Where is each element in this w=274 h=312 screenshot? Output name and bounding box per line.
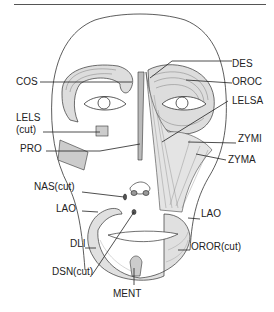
label-lao-right: LAO (201, 208, 221, 219)
label-pro: PRO (20, 143, 42, 154)
label-dli: DLI (70, 238, 86, 249)
label-ment: MENT (113, 288, 141, 299)
label-nascut: NAS(cut) (34, 181, 75, 192)
label-oroc: OROC (232, 76, 262, 87)
label-lao-left: LAO (56, 203, 76, 214)
label-zyma: ZYMA (228, 154, 256, 165)
label-lelsa: LELSA (232, 95, 263, 106)
label-lels: LELS (16, 112, 40, 123)
label-dsncut: DSN(cut) (52, 266, 93, 277)
label-des: DES (232, 58, 253, 69)
label-zymi: ZYMI (238, 133, 262, 144)
label-lels-cut: (cut) (16, 124, 36, 135)
label-cos: COS (16, 76, 38, 87)
label-ororcut: OROR(cut) (191, 241, 241, 252)
